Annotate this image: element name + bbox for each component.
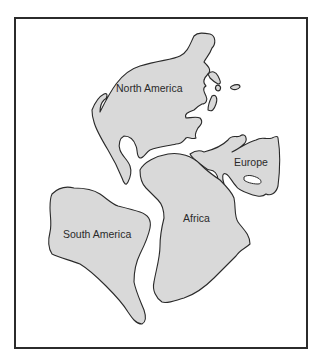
label-south-america: South America <box>63 228 131 240</box>
continent-map: North America Europe Africa South Americ… <box>0 0 320 363</box>
label-africa: Africa <box>183 212 210 224</box>
island <box>231 85 241 90</box>
label-north-america: North America <box>116 82 183 94</box>
label-europe: Europe <box>234 156 268 168</box>
island <box>208 95 217 110</box>
island <box>215 85 220 91</box>
island <box>208 72 220 84</box>
south-america-landmass <box>49 187 151 324</box>
